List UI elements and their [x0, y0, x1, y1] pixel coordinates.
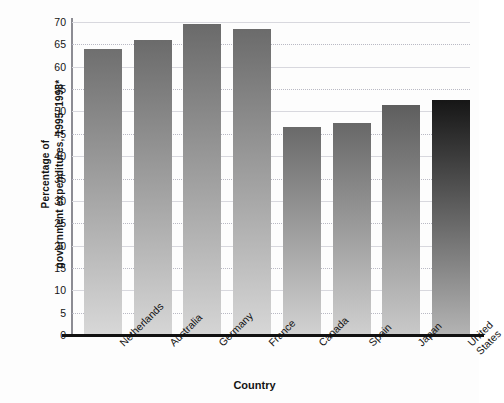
y-tick-label-15: 15 — [54, 262, 66, 274]
bar-japan — [382, 105, 420, 335]
x-tick-label-text: States — [474, 348, 482, 356]
bar-australia — [134, 40, 172, 335]
x-tick-label-spain: Spain — [366, 340, 374, 348]
x-axis-title: Country — [0, 379, 479, 391]
y-tick-label-50: 50 — [54, 105, 66, 117]
bar-united-states — [432, 100, 470, 335]
y-tick-label-55: 55 — [54, 83, 66, 95]
y-tick-label-35: 35 — [54, 173, 66, 185]
x-tick-label-japan: Japan — [415, 340, 423, 348]
bar-netherlands — [84, 49, 122, 335]
bar-germany — [183, 24, 221, 335]
y-tick-label-60: 60 — [54, 61, 66, 73]
y-tick-label-70: 70 — [54, 16, 66, 28]
y-tick-label-30: 30 — [54, 195, 66, 207]
bars-group — [72, 22, 470, 335]
bar-spain — [333, 123, 371, 335]
x-tick-label-netherlands: Netherlands — [117, 340, 125, 348]
y-axis-title-line-1: Percentage of — [39, 29, 53, 319]
plot-area: 0510152025303540455055606570 — [72, 22, 470, 335]
y-tick-label-20: 20 — [54, 240, 66, 252]
y-tick-label-45: 45 — [54, 128, 66, 140]
bar-france — [233, 29, 271, 335]
y-tick-label-40: 40 — [54, 150, 66, 162]
x-tick-label-united-states: UnitedStates — [465, 340, 482, 357]
bar-canada — [283, 127, 321, 335]
y-tick-label-25: 25 — [54, 217, 66, 229]
y-tick-label-65: 65 — [54, 38, 66, 50]
x-tick-label-canada: Canada — [316, 340, 324, 348]
x-tick-label-germany: Germany — [216, 340, 224, 348]
x-tick-label-france: France — [266, 340, 274, 348]
x-tick-label-australia: Australia — [167, 340, 175, 348]
y-tick-label-10: 10 — [54, 284, 66, 296]
y-tick-label-5: 5 — [60, 307, 66, 319]
